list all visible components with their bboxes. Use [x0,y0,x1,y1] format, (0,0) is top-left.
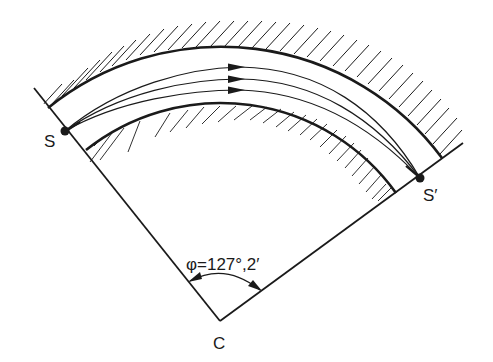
sector-diagram: S S′ C φ=127°,2′ [0,0,493,362]
arrow-icon [228,76,245,84]
source-label: S [44,132,55,151]
angle-arrow-right-icon [248,280,262,291]
central-ray-lead [65,79,240,131]
inner-ray-lead [65,90,240,131]
image-label: S′ [423,186,438,205]
arrow-icon [228,64,245,72]
source-point [61,127,70,136]
outer-hatching [40,21,462,154]
right-boundary-line [220,143,463,321]
image-point [416,174,425,183]
center-label: C [213,334,225,353]
angle-label: φ=127°,2′ [186,255,259,274]
arrow-icon [228,87,245,95]
central-ray-tail [240,79,420,178]
outer-ray-tail [240,67,420,178]
